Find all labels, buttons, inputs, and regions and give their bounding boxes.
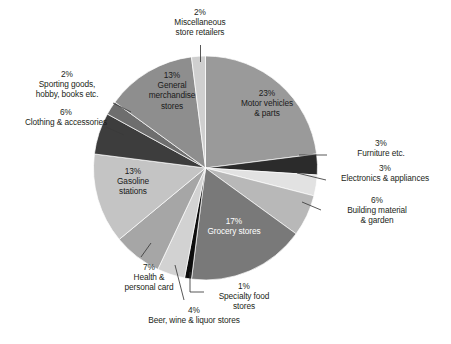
slice-label-clothing-accessories: 6% Clothing & accessories xyxy=(2,107,130,127)
slice-label-motor-vehicles-parts: 23% Motor vehicles & parts xyxy=(219,88,315,119)
slice-label-gasoline-stations: 13% Gasoline stations xyxy=(98,166,168,197)
slice-label-general-merchandise-stores: 13% General merchandise stores xyxy=(136,70,208,111)
pie-chart-figure: 2% Miscellaneous store retailers 2% Spor… xyxy=(0,0,451,344)
slice-label-electronics-appliances: 3% Electronics & appliances xyxy=(320,163,450,183)
slice-label-beer-wine-liquor-stores: 4% Beer, wine & liquor stores xyxy=(104,305,284,325)
slice-label-building-material-garden: 6% Building material & garden xyxy=(322,195,432,226)
slice-label-furniture: 3% Furniture etc. xyxy=(327,138,435,158)
slice-label-sporting-goods: 2% Sporting goods, hobby, books etc. xyxy=(2,69,132,100)
slice-label-health-personal-card: 7% Health & personal card xyxy=(103,262,195,293)
slice-label-miscellaneous-store-retailers: 2% Miscellaneous store retailers xyxy=(141,7,259,38)
slice-label-grocery-stores: 17% Grocery stores xyxy=(184,216,284,236)
